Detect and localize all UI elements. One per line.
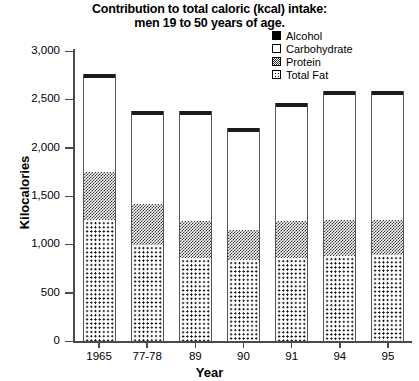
chart-title-line-1: Contribution to total caloric (kcal) int… [92,2,327,16]
x-tick-mark [291,341,293,348]
bar-segment-carbohydrate [276,107,307,221]
bar-1965 [83,74,116,341]
bar-segment-total-fat [324,256,355,341]
bar-segment-total-fat [228,260,259,341]
y-tick-label: 0 [0,335,60,346]
bar-segment-alcohol [276,103,307,107]
y-tick-label: 500 [0,287,60,298]
bar-segment-alcohol [132,111,163,115]
bar-chart: Contribution to total caloric (kcal) int… [0,0,419,381]
y-axis-ticks: 05001,0001,5002,0002,5003,000 [0,0,73,381]
x-tick-mark [146,341,148,348]
bar-segment-carbohydrate [228,132,259,230]
y-tick-label: 2,000 [0,142,60,153]
plot-area [73,51,410,341]
bar-91 [275,103,308,341]
x-tick-mark [98,341,100,348]
bar-segment-carbohydrate [132,115,163,204]
bar-segment-total-fat [84,220,115,341]
bar-segment-protein [84,172,115,220]
bar-90 [227,128,260,341]
bar-89 [179,111,212,341]
x-axis-title: Year [0,365,419,380]
bar-segment-total-fat [276,258,307,341]
bar-segment-alcohol [372,91,403,95]
x-tick-mark [195,341,197,348]
y-tick-label: 1,500 [0,190,60,201]
bar-segment-carbohydrate [372,95,403,221]
bar-segment-total-fat [132,245,163,341]
bar-segment-total-fat [180,258,211,341]
bar-segment-carbohydrate [180,115,211,221]
x-tick-label: 95 [358,350,418,362]
bar-segment-protein [180,221,211,258]
bar-segment-total-fat [372,255,403,341]
legend-swatch-alcohol-icon [272,31,281,40]
bar-segment-protein [276,221,307,258]
y-tick-label: 2,500 [0,93,60,104]
bar-segment-alcohol [228,128,259,132]
bar-segment-protein [372,220,403,255]
bar-segment-carbohydrate [324,95,355,221]
bar-segment-protein [228,230,259,260]
x-tick-mark [339,341,341,348]
bar-94 [323,91,356,341]
bar-segment-carbohydrate [84,78,115,172]
bar-77-78 [131,111,164,341]
y-tick-label: 1,000 [0,238,60,249]
bar-segment-protein [324,220,355,256]
x-tick-mark [243,341,245,348]
legend-item-alcohol: Alcohol [272,29,412,42]
bar-segment-alcohol [84,74,115,78]
legend-label-alcohol: Alcohol [286,30,322,42]
bar-segment-alcohol [324,91,355,95]
bar-segment-protein [132,204,163,246]
y-tick-label: 3,000 [0,45,60,56]
x-tick-mark [387,341,389,348]
bar-segment-alcohol [180,111,211,115]
bar-95 [371,91,404,341]
